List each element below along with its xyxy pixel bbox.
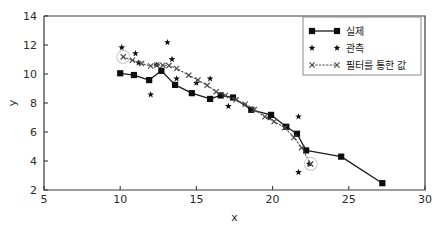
series-star: [118, 39, 312, 175]
legend-marker: [334, 28, 340, 34]
legend-marker: [309, 28, 315, 34]
x-tick-label: 30: [418, 193, 432, 206]
data-point: [204, 83, 209, 88]
y-axis-title: y: [6, 99, 19, 106]
data-point: [166, 63, 171, 68]
data-point: [146, 77, 152, 83]
data-point: [121, 54, 126, 59]
data-point: [225, 103, 232, 109]
data-point: [338, 154, 344, 160]
data-point: [207, 96, 213, 102]
legend-label: 관측: [346, 43, 364, 54]
y-tick-label: 2: [30, 184, 37, 197]
data-point: [207, 75, 214, 81]
series-square: [117, 68, 385, 187]
x-tick-label: 25: [342, 193, 356, 206]
y-tick-label: 12: [23, 39, 37, 52]
data-point: [158, 68, 164, 74]
x-tick-label: 20: [266, 193, 280, 206]
data-point: [164, 39, 171, 45]
y-tick-label: 6: [30, 126, 37, 139]
x-axis-title: x: [231, 211, 238, 224]
data-point: [295, 113, 302, 119]
data-point: [186, 73, 191, 78]
data-point: [118, 44, 125, 50]
legend-label: 실제: [346, 26, 364, 37]
y-tick-label: 4: [30, 155, 37, 168]
data-point: [147, 91, 154, 97]
series-line: [120, 71, 382, 183]
data-point: [131, 72, 137, 78]
data-point: [379, 180, 385, 186]
data-point: [132, 50, 139, 56]
data-point: [189, 90, 195, 96]
data-point: [117, 70, 123, 76]
x-tick-label: 5: [41, 193, 48, 206]
data-point: [169, 56, 176, 62]
data-point: [214, 89, 219, 94]
x-tick-label: 15: [189, 193, 203, 206]
series-x: [121, 54, 314, 166]
legend-layer: 실제관측필터를 통한 값: [303, 17, 421, 75]
data-point: [272, 119, 277, 124]
data-point: [172, 82, 178, 88]
y-tick-label: 8: [30, 97, 37, 110]
x-tick-label: 10: [113, 193, 127, 206]
chart-canvas: 510152025302468101214xy 실제관측필터를 통한 값: [0, 0, 446, 225]
data-point: [173, 75, 180, 81]
y-tick-label: 10: [23, 68, 37, 81]
y-tick-label: 14: [23, 10, 37, 23]
series-line: [123, 57, 310, 164]
chart-figure: 510152025302468101214xy 실제관측필터를 통한 값: [0, 0, 446, 225]
data-point: [174, 66, 179, 71]
legend-label: 필터를 통한 값: [346, 60, 406, 71]
data-point: [130, 58, 135, 63]
data-point: [295, 169, 302, 175]
